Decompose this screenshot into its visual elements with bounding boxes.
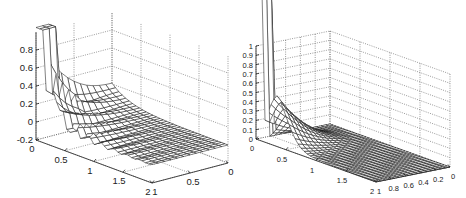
y-tick-label: 0.5 [186, 176, 199, 187]
x-tick-label: 2 [370, 187, 374, 196]
y-tick-label: 0.8 [389, 184, 399, 193]
z-tick-label: 0.6 [243, 79, 253, 88]
x-tick-label: 0 [250, 144, 254, 153]
y-tick-label: 0.4 [418, 178, 428, 187]
z-tick-label: 0.5 [243, 89, 253, 98]
x-tick-label: 1.5 [337, 176, 347, 185]
z-tick-label: 0.1 [243, 126, 253, 135]
z-tick-label: 0.4 [20, 80, 33, 91]
z-tick-label: 0.7 [243, 70, 253, 79]
left-surface-plot: -0.200.20.40.60.800.511.5210.50 [17, 12, 234, 197]
z-tick-label: 0 [249, 135, 253, 144]
z-tick-label: 0.6 [20, 62, 33, 73]
z-tick-label: 0.9 [243, 51, 253, 60]
z-tick-label: 0.4 [243, 98, 253, 107]
x-tick-label: 0 [29, 143, 34, 154]
z-tick-label: 0.8 [243, 61, 253, 70]
z-tick-label: 1 [249, 42, 253, 51]
z-tick-label: 0.2 [243, 116, 253, 125]
x-tick-label: 0.5 [277, 155, 287, 164]
x-tick-label: 2 [145, 186, 150, 197]
z-tick-label: 0.2 [20, 98, 33, 109]
y-tick-label: 0.6 [403, 181, 413, 190]
right-surface-plot: 00.10.20.30.40.50.60.70.80.9100.511.5210… [243, 0, 456, 196]
z-tick-label: 0.8 [20, 44, 33, 55]
y-tick-label: 1 [152, 186, 157, 197]
y-tick-label: 0 [451, 172, 455, 181]
y-tick-label: 1 [377, 187, 381, 196]
y-tick-label: 0.2 [433, 175, 443, 184]
z-tick-label: 0 [28, 116, 33, 127]
x-tick-label: 1 [87, 165, 92, 176]
y-tick-label: 0 [228, 166, 233, 177]
x-tick-label: 1.5 [112, 175, 125, 186]
x-tick-label: 1 [310, 166, 314, 175]
z-tick-label: 0.3 [243, 107, 253, 116]
x-tick-label: 0.5 [54, 154, 67, 165]
figure-canvas: -0.200.20.40.60.800.511.5210.50 00.10.20… [0, 0, 466, 198]
